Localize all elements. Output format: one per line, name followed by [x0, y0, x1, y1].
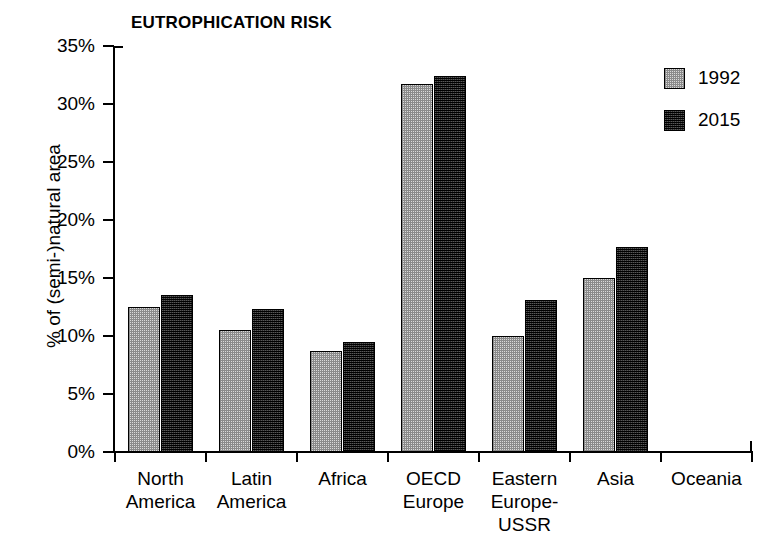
- bar-group: [570, 46, 661, 452]
- y-tick-label: 25%: [11, 152, 95, 171]
- legend-item: 1992: [664, 67, 740, 89]
- y-tick-mark: [103, 45, 114, 47]
- bar-1992: [492, 336, 524, 452]
- y-tick-label: 30%: [11, 94, 95, 113]
- bar-2015: [252, 309, 284, 452]
- legend-item: 2015: [664, 109, 740, 131]
- y-tick-mark: [103, 393, 114, 395]
- y-tick-mark: [103, 161, 114, 163]
- bar-1992: [219, 330, 251, 452]
- y-tick-label: 15%: [11, 268, 95, 287]
- bar-group: [297, 46, 388, 452]
- bar-group: [206, 46, 297, 452]
- x-axis-label: Oceania: [647, 467, 766, 490]
- x-tick-mark: [296, 451, 298, 462]
- y-tick-label: 10%: [11, 326, 95, 345]
- x-tick-mark: [114, 451, 116, 462]
- legend-label: 1992: [698, 67, 740, 89]
- x-tick-mark: [751, 451, 753, 462]
- bar-group: [479, 46, 570, 452]
- bar-2015: [343, 342, 375, 452]
- plot-area: [115, 46, 752, 452]
- chart-title: EUTROPHICATION RISK: [131, 13, 332, 33]
- y-tick-label: 35%: [11, 36, 95, 55]
- x-axis-label-line: Europe-: [465, 490, 584, 513]
- bar-2015: [616, 247, 648, 452]
- x-tick-mark: [387, 451, 389, 462]
- y-tick-label: 0%: [11, 442, 95, 461]
- x-axis-label-line: Oceania: [647, 467, 766, 490]
- x-tick-mark: [205, 451, 207, 462]
- bar-group: [115, 46, 206, 452]
- x-tick-mark: [660, 451, 662, 462]
- x-axis-label-line: USSR: [465, 513, 584, 536]
- legend-swatch-1992: [664, 68, 685, 89]
- y-tick-label: 20%: [11, 210, 95, 229]
- bar-1992: [401, 84, 433, 452]
- y-tick-label: 5%: [11, 384, 95, 403]
- bar-2015: [525, 300, 557, 452]
- bar-2015: [434, 76, 466, 452]
- y-tick-mark: [103, 277, 114, 279]
- x-axis-label-line: America: [192, 490, 311, 513]
- bar-1992: [583, 278, 615, 452]
- bar-1992: [128, 307, 160, 452]
- y-tick-mark: [103, 219, 114, 221]
- bar-1992: [310, 351, 342, 452]
- x-tick-mark: [478, 451, 480, 462]
- legend-label: 2015: [698, 109, 740, 131]
- x-tick-mark: [569, 451, 571, 462]
- bar-2015: [161, 295, 193, 452]
- bar-group: [388, 46, 479, 452]
- y-tick-mark: [103, 103, 114, 105]
- y-tick-mark: [103, 335, 114, 337]
- y-tick-mark: [103, 451, 114, 453]
- legend-swatch-2015: [664, 110, 685, 131]
- chart-legend: 19922015: [664, 67, 740, 151]
- eutrophication-risk-chart: EUTROPHICATION RISK % of (semi-)natural …: [0, 0, 775, 558]
